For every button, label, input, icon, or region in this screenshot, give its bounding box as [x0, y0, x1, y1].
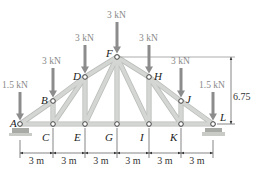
dim-arrowhead-icon: [181, 152, 184, 155]
dim-arrowhead-icon: [210, 152, 213, 155]
dim-arrowhead-icon: [146, 152, 149, 155]
node-H: [147, 75, 152, 80]
node-C: [51, 122, 56, 127]
node-F: [115, 55, 120, 60]
node-label-D: D: [72, 70, 81, 82]
node-L: [211, 122, 216, 127]
load-label-H: 3 kN: [139, 33, 158, 43]
node-label-G: G: [105, 131, 113, 143]
load-label-L: 1.5 kN: [199, 80, 225, 90]
pin-support-a-base: [9, 133, 32, 136]
load-label-A: 1.5 kN: [2, 80, 28, 90]
node-label-F: F: [105, 47, 113, 59]
span-dim-label: 3 m: [189, 155, 205, 166]
node-E: [83, 122, 88, 127]
node-J: [179, 99, 184, 104]
load-label-F: 3 kN: [107, 10, 126, 20]
node-D: [83, 75, 88, 80]
node-G: [115, 122, 120, 127]
node-I: [147, 122, 152, 127]
roller-support-l: [202, 128, 225, 136]
dim-arrowhead-icon: [230, 57, 233, 60]
load-label-D: 3 kN: [75, 33, 94, 43]
span-dim-label: 3 m: [125, 155, 141, 166]
load-label-J: 3 kN: [171, 56, 190, 66]
dim-arrowhead-icon: [149, 152, 152, 155]
pin-support-a: [9, 128, 32, 136]
node-label-K: K: [169, 131, 178, 143]
dim-arrowhead-icon: [50, 152, 53, 155]
node-label-H: H: [153, 70, 163, 82]
node-label-J: J: [186, 93, 192, 105]
roller-support-l-block: [205, 128, 222, 132]
dim-arrowhead-icon: [53, 152, 56, 155]
load-arrow-icon: [113, 47, 121, 54]
truss-diagram: 3 m3 m3 m3 m3 m3 m6.75 m 1.5 kN3 kN3 kN3…: [0, 0, 253, 176]
span-dim-label: 3 m: [93, 155, 109, 166]
node-label-L: L: [219, 111, 226, 123]
node-label-C: C: [42, 131, 50, 143]
dim-arrowhead-icon: [82, 152, 85, 155]
dim-arrowhead-icon: [114, 152, 117, 155]
span-dim-label: 3 m: [157, 155, 173, 166]
node-label-A: A: [9, 117, 17, 129]
span-dim-label: 3 m: [29, 155, 45, 166]
node-A: [18, 122, 23, 127]
node-B: [51, 99, 56, 104]
node-label-I: I: [139, 131, 145, 143]
load-label-B: 3 kN: [42, 56, 61, 66]
roller-support-l-base: [202, 132, 225, 136]
height-dim-label: 6.75 m: [233, 91, 253, 102]
dim-arrowhead-icon: [117, 152, 120, 155]
span-dim-label: 3 m: [61, 155, 77, 166]
dim-arrowhead-icon: [230, 121, 233, 124]
dim-arrowhead-icon: [178, 152, 181, 155]
node-label-E: E: [73, 131, 81, 143]
dim-arrowhead-icon: [85, 152, 88, 155]
node-label-B: B: [41, 94, 48, 106]
node-K: [179, 122, 184, 127]
dim-arrowhead-icon: [20, 152, 23, 155]
member-AB: [20, 101, 53, 124]
